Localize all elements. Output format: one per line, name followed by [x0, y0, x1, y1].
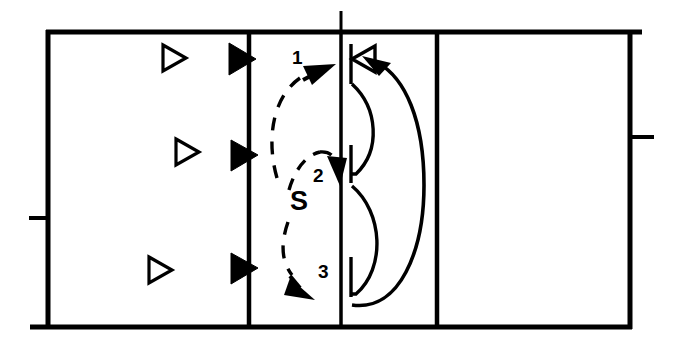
- source-label-s: S: [290, 188, 308, 215]
- flow-label-3: 3: [318, 262, 329, 281]
- dashed-path-3-curve: [283, 222, 292, 275]
- filled-triangle-markers: [229, 43, 258, 284]
- hollow-triangle-middle: [176, 139, 199, 165]
- flow-label-2: 2: [313, 166, 324, 185]
- hollow-triangle-markers: [149, 45, 199, 283]
- dashed-flow-paths: [272, 64, 347, 300]
- figure-root: 1 2 S 3: [0, 0, 675, 358]
- filled-triangle-bottom: [231, 253, 258, 284]
- brace-curve-lower: [351, 186, 377, 294]
- brace-structure: [351, 44, 424, 306]
- outer-frame: [30, 30, 642, 329]
- brace-curve-upper: [351, 84, 373, 174]
- filled-triangle-middle: [231, 140, 258, 171]
- flow-label-1: 1: [292, 48, 303, 67]
- dashed-path-3-arrowhead: [284, 278, 315, 300]
- hollow-triangle-top: [163, 45, 186, 71]
- dashed-path-1-curve: [272, 76, 303, 178]
- dashed-path-1-arrowhead: [303, 64, 336, 85]
- dashed-path-2-arrowhead: [327, 156, 347, 186]
- hollow-triangle-bottom: [149, 257, 172, 283]
- internal-dividers: [249, 32, 437, 327]
- schematic-diagram: [0, 0, 675, 358]
- filled-triangle-top: [229, 43, 256, 75]
